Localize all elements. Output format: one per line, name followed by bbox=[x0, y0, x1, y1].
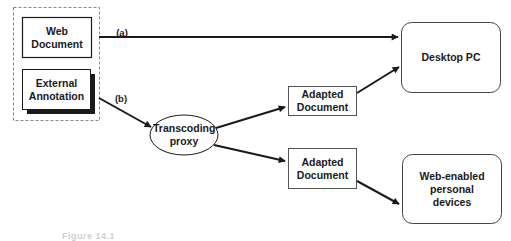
adapted-document-bottom-label: Adapted Document bbox=[288, 148, 357, 189]
adapted-top-to-desktop-arrow bbox=[357, 67, 399, 93]
proxy-to-adapted-top-arrow bbox=[216, 107, 285, 128]
proxy-to-adapted-bottom-arrow bbox=[214, 145, 285, 161]
adapted-document-top-label: Adapted Document bbox=[288, 86, 357, 116]
web-document-label: Web Document bbox=[22, 18, 92, 58]
desktop-pc-label: Desktop PC bbox=[401, 22, 501, 93]
transcoding-proxy-label: Transcoding proxy bbox=[150, 116, 218, 154]
external-annotation-label: External Annotation bbox=[22, 70, 91, 110]
figure-caption: Figure 14.1 bbox=[62, 231, 115, 241]
edge-a-label: (a) bbox=[114, 26, 130, 38]
adapted-bottom-to-devices-arrow bbox=[357, 181, 399, 204]
edge-b-label: (b) bbox=[113, 92, 129, 104]
web-enabled-devices-label: Web-enabled personal devices bbox=[402, 154, 502, 224]
